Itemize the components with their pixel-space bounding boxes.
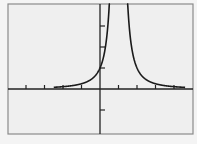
function-graph bbox=[0, 0, 197, 144]
